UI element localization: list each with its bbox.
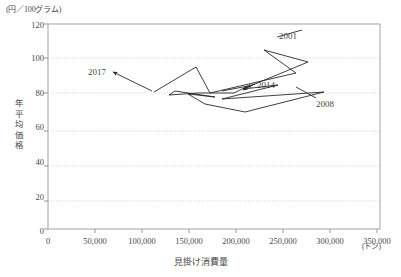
plot-frame [48, 24, 380, 229]
gridlines [48, 58, 380, 201]
axis-ticks [44, 24, 377, 233]
chart-figure: (円／100グラム) 年 平 均 価 格 120 100 80 60 40 20… [0, 0, 401, 277]
leader-line-2001 [277, 30, 302, 37]
annotation-leaders [113, 30, 316, 98]
leader-line-2017 [113, 72, 152, 91]
plot-canvas [0, 0, 401, 277]
data-series-line [154, 50, 324, 112]
